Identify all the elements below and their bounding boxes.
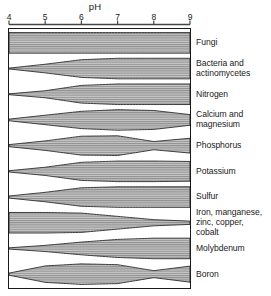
band-phosphorus [9,136,190,156]
band-boron [9,264,190,285]
band-nitrogen [9,84,190,105]
band-iron-manganese-zinc-copper-cobalt [9,212,190,233]
legend-item-molybdenum: Molybdenum [196,243,245,253]
legend-item-sulfur: Sulfur [196,191,218,201]
band-molybdenum [9,238,190,259]
band-bacteria-and-actinomycetes [9,58,190,79]
legend: FungiBacteria and actinomycetesNitrogenC… [196,0,271,296]
band-calcium-and-magnesium [9,110,190,131]
availability-bands [9,33,190,285]
legend-item-iron-manganese: Iron, manganese, zinc, copper, cobalt [196,207,262,238]
ph-nutrient-availability-chart: pH 456789 FungiBacteria and actinomycete… [0,0,271,296]
legend-item-phosphorus: Phosphorus [196,140,241,150]
legend-item-boron: Boron [196,269,219,279]
legend-item-bacteria-and: Bacteria and actinomycetes [196,58,250,78]
x-axis [9,21,190,25]
legend-item-fungi: Fungi [196,37,217,47]
legend-item-calcium-and: Calcium and magnesium [196,109,243,129]
band-potassium [9,161,190,182]
legend-item-nitrogen: Nitrogen [196,89,228,99]
legend-item-potassium: Potassium [196,166,236,176]
band-fungi [9,33,190,54]
band-sulfur [9,187,190,208]
